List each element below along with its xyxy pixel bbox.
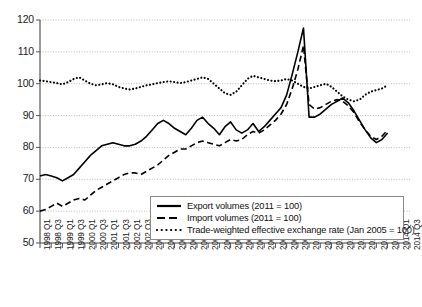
x-axis-tick-label: 2002 Q1 <box>133 219 142 250</box>
x-axis-tick-label: 2000 Q1 <box>88 219 97 250</box>
legend-item-export: Export volumes (2011 = 100) <box>156 200 399 212</box>
x-axis-tick-label: 1999 Q1 <box>66 219 75 250</box>
data-series-layer <box>40 28 388 211</box>
x-axis-tick-label: 1998 Q3 <box>54 219 63 250</box>
legend-swatch-dotted <box>156 225 182 235</box>
x-axis-tick-label: 1999 Q3 <box>77 219 86 250</box>
legend-item-exchange-rate: Trade-weighted effective exchange rate (… <box>156 224 399 236</box>
chart-legend: Export volumes (2011 = 100) Import volum… <box>150 196 404 240</box>
x-axis-tick-label: 2001 Q3 <box>122 219 131 250</box>
legend-label-exchange-rate: Trade-weighted effective exchange rate (… <box>187 225 415 235</box>
series-line <box>40 76 388 101</box>
x-axis-tick-label: 2001 Q1 <box>110 219 119 250</box>
series-line <box>40 28 388 181</box>
y-axis-tick-label: 50 <box>10 236 34 248</box>
y-axis-tick-label: 80 <box>10 140 34 152</box>
y-axis-tick-label: 90 <box>10 109 34 121</box>
legend-label-export: Export volumes (2011 = 100) <box>187 201 302 211</box>
y-axis-tick-label: 60 <box>10 204 34 216</box>
legend-swatch-solid <box>156 201 182 211</box>
legend-swatch-dashed <box>156 213 182 223</box>
legend-item-import: Import volumes (2011 = 100) <box>156 212 399 224</box>
x-axis-tick-label: 2000 Q3 <box>99 219 108 250</box>
legend-label-import: Import volumes (2011 = 100) <box>187 213 301 223</box>
x-axis-tick-label: 1998 Q1 <box>43 219 52 250</box>
y-axis-tick-label: 70 <box>10 172 34 184</box>
y-axis-tick-label: 100 <box>10 77 34 89</box>
y-axis-tick-label: 120 <box>10 13 34 25</box>
y-axis-line <box>36 20 40 243</box>
y-axis-tick-label: 110 <box>10 45 34 57</box>
